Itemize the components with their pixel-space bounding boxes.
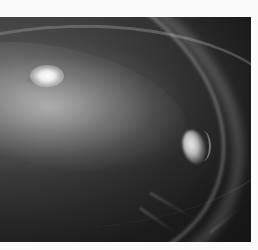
astronomy-image	[0, 17, 251, 242]
vignette	[0, 17, 251, 242]
